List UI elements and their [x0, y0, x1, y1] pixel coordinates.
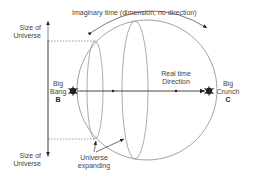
universe-sphere — [77, 20, 217, 160]
universe-expanding-label: Universe expanding — [76, 154, 112, 170]
slice-ellipse-small — [87, 41, 103, 139]
axis-tick — [112, 90, 114, 92]
big-crunch-label: Big Crunch C — [216, 80, 240, 104]
imaginary-time-label: Imaginary time (dimension, no direction) — [72, 9, 197, 17]
point-b-label: B — [50, 96, 66, 104]
big-bang-label: Big Bang B — [50, 80, 66, 104]
size-of-universe-top-label: Size of Universe — [10, 24, 41, 40]
big-crunch-burst-icon — [204, 86, 215, 97]
axis-tick — [175, 90, 177, 92]
slice-ellipse-large — [122, 21, 148, 159]
real-time-direction-label: Real time Direction — [158, 70, 194, 86]
point-c-label: C — [216, 96, 240, 104]
size-of-universe-bottom-label: Size of Universe — [10, 152, 41, 168]
